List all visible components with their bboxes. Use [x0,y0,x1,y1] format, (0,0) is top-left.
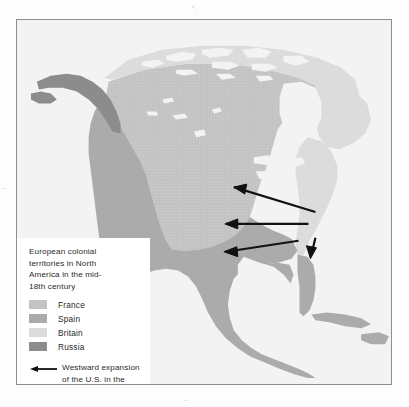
legend-label-russia: Russia [58,342,85,352]
legend-item-france: France [29,298,144,311]
legend-swatch-spain [29,314,47,323]
legend-item-expansion: Westward expansion of the U.S. in the 19… [29,362,144,385]
legend-label-britain: Britain [58,328,83,338]
scan-speckle [2,188,5,189]
scan-speckle [196,9,197,10]
legend-label-spain: Spain [58,314,80,324]
map-legend: European colonial territories in North A… [17,238,150,385]
left-arrow-icon [29,364,58,374]
legend-swatch-france [29,300,47,309]
legend-item-spain: Spain [29,312,144,325]
legend-item-russia: Russia [29,340,144,353]
scan-speckle [192,6,194,8]
scan-speckle [185,400,187,401]
legend-label-france: France [58,300,85,310]
map-frame: European colonial territories in North A… [16,19,392,385]
legend-item-britain: Britain [29,326,144,339]
legend-swatch-britain [29,328,47,337]
legend-swatch-russia [29,342,47,351]
legend-label-expansion: Westward expansion of the U.S. in the 19… [62,362,140,385]
scanned-page-background: European colonial territories in North A… [0,0,409,407]
legend-caption: European colonial territories in North A… [29,246,144,292]
